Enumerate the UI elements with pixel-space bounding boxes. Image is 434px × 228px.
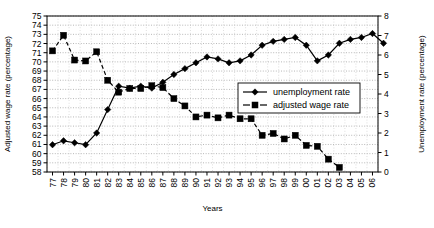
data-point-adjusted-wage-rate <box>149 83 155 89</box>
data-point-unemployment-rate <box>347 36 353 42</box>
x-axis-ticks: 7778798081828384858687888990919293949596… <box>48 172 378 187</box>
y-tick-label-left: 70 <box>32 57 42 67</box>
x-tick-label: 84 <box>125 178 135 188</box>
data-point-adjusted-wage-rate <box>72 57 78 63</box>
x-tick-label: 89 <box>180 178 190 188</box>
data-point-adjusted-wage-rate <box>237 116 243 122</box>
y-tick-label-left: 61 <box>32 139 42 149</box>
data-point-adjusted-wage-rate <box>226 112 232 118</box>
data-point-adjusted-wage-rate <box>270 130 276 136</box>
data-point-unemployment-rate <box>226 60 232 66</box>
x-tick-label: 98 <box>279 178 289 188</box>
legend-marker-square <box>252 102 258 108</box>
x-tick-label: 96 <box>257 178 267 188</box>
data-point-unemployment-rate <box>193 60 199 66</box>
data-point-adjusted-wage-rate <box>314 143 320 149</box>
data-point-adjusted-wage-rate <box>171 96 177 102</box>
data-point-unemployment-rate <box>60 138 66 144</box>
y-tick-label-left: 63 <box>32 121 42 131</box>
y-tick-label-left: 73 <box>32 29 42 39</box>
y-tick-label-left: 72 <box>32 39 42 49</box>
data-point-adjusted-wage-rate <box>193 114 199 120</box>
y-tick-label-right: 4 <box>384 89 389 99</box>
y-tick-label-right: 7 <box>384 31 389 41</box>
data-point-adjusted-wage-rate <box>127 85 133 91</box>
x-tick-label: 80 <box>81 178 91 188</box>
data-point-adjusted-wage-rate <box>336 164 342 170</box>
x-tick-label: 88 <box>169 178 179 188</box>
data-point-adjusted-wage-rate <box>182 103 188 109</box>
x-tick-label: 95 <box>246 178 256 188</box>
y-axis-left-ticks: 585960616263646566676869707172737475 <box>32 11 47 177</box>
y-tick-label-left: 67 <box>32 84 42 94</box>
y-tick-label-right: 0 <box>384 167 389 177</box>
data-point-adjusted-wage-rate <box>61 32 67 38</box>
data-point-unemployment-rate <box>237 58 243 64</box>
x-tick-label: 04 <box>345 178 355 188</box>
legend-label: adjusted wage rate <box>273 100 349 110</box>
data-point-adjusted-wage-rate <box>83 58 89 64</box>
data-point-unemployment-rate <box>204 54 210 60</box>
y-tick-label-left: 71 <box>32 48 42 58</box>
x-tick-label: 82 <box>103 178 113 188</box>
dual-axis-line-chart: 585960616263646566676869707172737475 012… <box>0 0 434 228</box>
data-point-adjusted-wage-rate <box>160 85 166 91</box>
y-tick-label-right: 3 <box>384 109 389 119</box>
data-point-adjusted-wage-rate <box>138 85 144 91</box>
y-tick-label-left: 62 <box>32 130 42 140</box>
x-tick-label: 99 <box>290 178 300 188</box>
x-tick-label: 91 <box>202 178 212 188</box>
y-tick-label-left: 59 <box>32 158 42 168</box>
x-tick-label: 94 <box>235 178 245 188</box>
data-point-adjusted-wage-rate <box>303 142 309 148</box>
x-tick-label: 03 <box>334 178 344 188</box>
y-tick-label-right: 2 <box>384 128 389 138</box>
x-tick-label: 97 <box>268 178 278 188</box>
data-point-adjusted-wage-rate <box>105 77 111 83</box>
x-axis-title: Years <box>202 204 222 213</box>
x-tick-label: 77 <box>48 178 58 188</box>
x-tick-label: 00 <box>301 178 311 188</box>
x-tick-label: 86 <box>147 178 157 188</box>
data-point-adjusted-wage-rate <box>215 115 221 121</box>
y-tick-label-right: 5 <box>384 70 389 80</box>
y-axis-right-title: Unemployment rate (percentage) <box>417 35 426 153</box>
y-tick-label-left: 60 <box>32 149 42 159</box>
y-tick-label-right: 1 <box>384 148 389 158</box>
x-tick-label: 01 <box>312 178 322 188</box>
y-tick-label-left: 58 <box>32 167 42 177</box>
data-point-unemployment-rate <box>71 140 77 146</box>
chart-container: 585960616263646566676869707172737475 012… <box>0 0 434 228</box>
data-point-adjusted-wage-rate <box>50 48 56 54</box>
y-axis-right-ticks: 012345678 <box>378 11 389 177</box>
x-tick-label: 85 <box>136 178 146 188</box>
y-axis-left-title: Adjusted wage rate (percentage) <box>3 36 12 152</box>
x-tick-label: 93 <box>224 178 234 188</box>
x-tick-label: 78 <box>59 178 69 188</box>
x-tick-label: 83 <box>114 178 124 188</box>
data-point-unemployment-rate <box>104 106 110 112</box>
x-tick-label: 92 <box>213 178 223 188</box>
data-point-adjusted-wage-rate <box>281 136 287 142</box>
chart-legend: unemployment rateadjusted wage rate <box>238 83 360 113</box>
y-tick-label-left: 75 <box>32 11 42 21</box>
x-tick-label: 81 <box>92 178 102 188</box>
data-point-adjusted-wage-rate <box>248 116 254 122</box>
y-tick-label-left: 65 <box>32 103 42 113</box>
data-point-unemployment-rate <box>116 83 122 89</box>
data-point-adjusted-wage-rate <box>292 132 298 138</box>
y-tick-label-left: 74 <box>32 20 42 30</box>
data-point-adjusted-wage-rate <box>94 49 100 55</box>
x-tick-label: 05 <box>356 178 366 188</box>
x-tick-label: 79 <box>70 178 80 188</box>
data-point-adjusted-wage-rate <box>259 132 265 138</box>
data-point-adjusted-wage-rate <box>204 112 210 118</box>
data-point-unemployment-rate <box>358 34 364 40</box>
y-tick-label-left: 64 <box>32 112 42 122</box>
legend-label: unemployment rate <box>273 87 350 97</box>
y-tick-label-right: 6 <box>384 50 389 60</box>
y-tick-label-left: 68 <box>32 75 42 85</box>
x-tick-label: 87 <box>158 178 168 188</box>
y-tick-label-left: 66 <box>32 94 42 104</box>
x-tick-label: 06 <box>367 178 377 188</box>
